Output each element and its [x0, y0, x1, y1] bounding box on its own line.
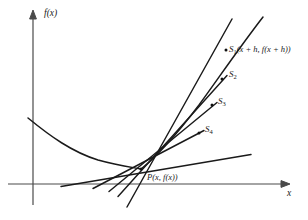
point-s2-dot: [221, 78, 224, 81]
function-curve: [28, 17, 263, 169]
y-axis: [30, 10, 37, 205]
point-s3-label: S3: [218, 97, 226, 106]
y-axis-label: f(x): [44, 9, 57, 19]
point-s1-label: S1(x + h, f(x + h)): [229, 45, 291, 54]
x-axis-label: x: [287, 189, 291, 199]
point-p-dot: [139, 167, 142, 170]
point-s1-coords: (x + h, f(x + h)): [237, 44, 291, 54]
point-s2-label: S2: [229, 70, 237, 79]
figure-canvas: [0, 0, 308, 220]
derivative-secant-figure: f(x) x S1(x + h, f(x + h)) S2 S3 S4 P(x,…: [0, 0, 308, 220]
point-s4-label: S4: [205, 125, 213, 134]
point-p-label: P(x, f(x)): [147, 173, 178, 182]
secant-line-s1: [127, 19, 232, 207]
point-s1-symbol: S1: [229, 44, 237, 54]
point-s3-dot: [211, 104, 214, 107]
point-s1-dot: [225, 49, 228, 52]
point-s4-dot: [198, 132, 201, 135]
